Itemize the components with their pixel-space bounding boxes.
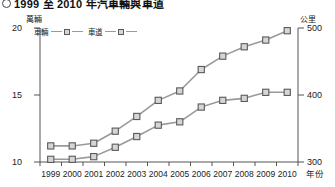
chart-figure: 1999 至 2010 年汽車輛與車道 萬輛 公里 20 15 10 500 4… [0, 0, 335, 187]
lanes-marker [241, 95, 247, 101]
lanes-marker [198, 104, 204, 110]
lanes-marker [134, 133, 140, 139]
lanes-marker [112, 144, 118, 150]
lanes-marker [69, 156, 75, 162]
lanes-marker [177, 119, 183, 125]
lanes-marker [155, 122, 161, 128]
vehicles-marker [220, 53, 226, 59]
lanes-line [51, 92, 288, 159]
vehicles-marker [263, 37, 269, 43]
vehicles-marker [112, 128, 118, 134]
lanes-marker [48, 156, 54, 162]
vehicles-marker [284, 28, 290, 34]
vehicles-marker [69, 143, 75, 149]
vehicles-marker [91, 140, 97, 146]
x-axis-tick-label: 2010 [274, 170, 300, 179]
series-vehicles [48, 28, 291, 149]
vehicles-line [51, 31, 288, 146]
lanes-marker [284, 89, 290, 95]
lanes-marker [220, 97, 226, 103]
vehicles-marker [198, 66, 204, 72]
vehicles-marker [155, 97, 161, 103]
plot-area [0, 0, 335, 187]
lanes-marker [263, 89, 269, 95]
series-lanes [48, 89, 291, 162]
vehicles-marker [177, 88, 183, 94]
lanes-marker [91, 154, 97, 160]
x-axis-ticks [40, 162, 298, 166]
vehicles-marker [134, 113, 140, 119]
vehicles-marker [48, 143, 54, 149]
x-axis-title: 年份 [306, 170, 324, 179]
vehicles-marker [241, 44, 247, 50]
